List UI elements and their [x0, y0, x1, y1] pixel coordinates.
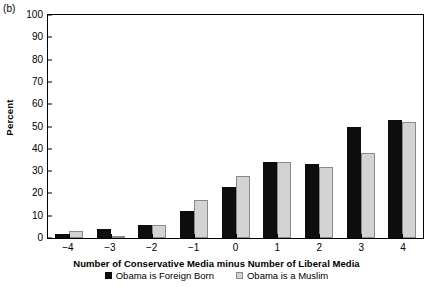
y-axis-tick-label: 90: [32, 32, 48, 42]
x-axis-tick-label: 4: [382, 243, 424, 257]
x-axis-tick-label: 3: [340, 243, 382, 257]
x-axis-tick-label: −3: [89, 243, 131, 257]
y-axis-tick-label: 100: [26, 10, 48, 20]
x-axis-tick-label: 0: [215, 243, 257, 257]
bar: [388, 120, 402, 238]
bar: [305, 164, 319, 238]
x-axis-tick-mark: [319, 234, 320, 238]
bar-group: [48, 15, 90, 238]
bar: [263, 162, 277, 238]
x-axis-tick-mark: [111, 234, 112, 238]
bar: [180, 211, 194, 238]
legend-item: Obama is Foreign Born: [105, 271, 214, 281]
x-axis-tick-mark: [402, 234, 403, 238]
bar: [152, 225, 166, 238]
x-axis-tick-labels: −4−3−2−101234: [47, 243, 424, 257]
x-axis-tick-mark: [277, 234, 278, 238]
x-axis-tick-label: −2: [131, 243, 173, 257]
x-axis-tick-mark: [361, 234, 362, 238]
x-axis-tick-mark: [236, 234, 237, 238]
x-axis-tick-mark: [152, 234, 153, 238]
bar: [361, 153, 375, 238]
bar-group: [90, 15, 132, 238]
x-axis-tick-label: 1: [256, 243, 298, 257]
bar-group: [381, 15, 423, 238]
bar-group: [298, 15, 340, 238]
y-axis-tick-label: 40: [32, 144, 48, 154]
figure: (b) Percent 0102030405060708090100 −4−3−…: [0, 0, 433, 287]
y-axis-tick-label: 70: [32, 77, 48, 87]
bar: [347, 127, 361, 239]
bar: [319, 167, 333, 238]
legend-item: Obama is a Muslim: [236, 271, 328, 281]
bar: [194, 200, 208, 238]
x-axis-tick-mark: [69, 234, 70, 238]
x-axis-tick-label: −4: [47, 243, 89, 257]
legend: Obama is Foreign Born Obama is a Muslim: [0, 271, 433, 281]
bar-group: [215, 15, 257, 238]
bar: [69, 231, 83, 238]
bar: [402, 122, 416, 238]
legend-label: Obama is Foreign Born: [116, 271, 214, 281]
bar-group: [256, 15, 298, 238]
y-axis-tick-label: 50: [32, 122, 48, 132]
bar-group: [340, 15, 382, 238]
y-axis-title: Percent: [4, 88, 15, 148]
legend-swatch-icon: [105, 272, 112, 279]
x-axis-title: Number of Conservative Media minus Numbe…: [0, 258, 433, 269]
y-axis-tick-label: 20: [32, 188, 48, 198]
y-axis-tick-label: 60: [32, 99, 48, 109]
legend-label: Obama is a Muslim: [247, 271, 328, 281]
bar-groups: [48, 15, 423, 238]
bar-group: [173, 15, 215, 238]
bar: [55, 234, 69, 238]
panel-label: (b): [3, 3, 16, 14]
bar: [111, 236, 125, 238]
y-axis-tick-label: 30: [32, 166, 48, 176]
bar-group: [131, 15, 173, 238]
bar: [97, 229, 111, 238]
x-axis-tick-label: −1: [173, 243, 215, 257]
x-axis-tick-label: 2: [298, 243, 340, 257]
bar: [277, 162, 291, 238]
legend-swatch-icon: [236, 272, 243, 279]
y-axis-tick-label: 0: [37, 233, 48, 243]
y-axis-tick-label: 80: [32, 55, 48, 65]
plot-area: 0102030405060708090100: [47, 14, 424, 239]
bar: [236, 176, 250, 238]
bar: [222, 187, 236, 238]
x-axis-tick-mark: [194, 234, 195, 238]
y-axis-tick-label: 10: [32, 211, 48, 221]
bar: [138, 225, 152, 238]
